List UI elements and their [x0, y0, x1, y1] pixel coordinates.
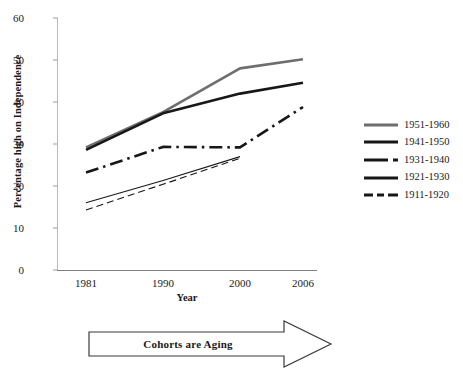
legend-line-icon [364, 175, 398, 181]
legend-swatch-solid-black [364, 137, 398, 147]
arrow-label: Cohorts are Aging [88, 320, 288, 368]
legend-line-icon [364, 122, 398, 128]
legend-item-1951-1960: 1951-1960 [364, 116, 463, 134]
legend-swatch-dashed [364, 190, 398, 200]
chart-legend: 1951-1960 1941-1950 1931-1940 [364, 116, 463, 204]
series-line-1931-1940 [86, 107, 303, 173]
legend-label: 1921-1930 [404, 172, 450, 183]
legend-label: 1951-1960 [404, 120, 450, 131]
x-tick-label-1981: 1981 [61, 277, 111, 289]
legend-swatch-dash-dot [364, 155, 398, 165]
legend-item-1931-1940: 1931-1940 [364, 151, 463, 169]
series-line-1911-1920 [86, 158, 240, 210]
legend-item-1911-1920: 1911-1920 [364, 186, 463, 204]
x-tick-label-2000: 2000 [215, 277, 265, 289]
cohorts-aging-arrow: Cohorts are Aging [88, 320, 333, 368]
legend-swatch-solid-thin [364, 173, 398, 183]
chart-page: Percentage high on Independence 60 50 40… [0, 0, 463, 375]
legend-line-icon [364, 192, 398, 198]
legend-item-1921-1930: 1921-1930 [364, 169, 463, 187]
series-lines [0, 0, 340, 300]
legend-line-icon [364, 139, 398, 145]
x-tick-label-1990: 1990 [138, 277, 188, 289]
legend-item-1941-1950: 1941-1950 [364, 134, 463, 152]
legend-label: 1941-1950 [404, 137, 450, 148]
legend-label: 1931-1940 [404, 155, 450, 166]
series-line-1921-1930 [86, 157, 240, 203]
x-axis-title: Year [57, 292, 317, 303]
legend-line-icon [364, 157, 398, 163]
legend-label: 1911-1920 [404, 190, 449, 201]
legend-swatch-solid-gray [364, 120, 398, 130]
x-tick-label-2006: 2006 [278, 277, 328, 289]
plot-area: Percentage high on Independence 60 50 40… [0, 0, 340, 300]
